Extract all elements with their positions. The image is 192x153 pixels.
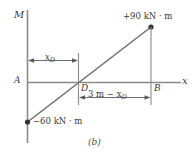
dimension-label-xd: xD	[45, 53, 55, 62]
dimension-label-span-main: 3 m − x	[88, 89, 122, 99]
data-point-min	[25, 119, 30, 124]
dimension-label-xd-sub: D	[50, 56, 55, 64]
min-value-label: −60 kN · m	[33, 117, 82, 126]
point-label-a: A	[14, 76, 21, 85]
arrowhead-xd-right	[72, 58, 78, 63]
horizontal-axis-label: x	[182, 76, 188, 86]
dimension-label-span-sub: D	[122, 93, 127, 101]
arrowhead-span-left	[79, 95, 85, 100]
diagram-canvas	[0, 0, 192, 153]
peak-value-label: +90 kN · m	[123, 12, 172, 21]
vertical-axis-label: M	[14, 10, 24, 20]
bending-moment-diagram: M x A D B +90 kN · m −60 kN · m xD 3 m −…	[0, 0, 192, 153]
moment-plot-line	[28, 27, 152, 122]
arrowhead-span-right	[145, 95, 151, 100]
dimension-label-span: 3 m − xD	[88, 90, 127, 99]
figure-caption: (b)	[88, 138, 101, 147]
point-label-b: B	[154, 84, 161, 93]
arrowhead-xd-left	[28, 58, 34, 63]
